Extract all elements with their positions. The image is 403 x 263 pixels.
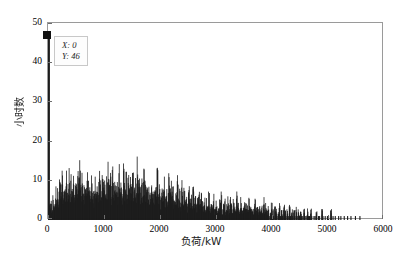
y-tick-label-10: 10 (20, 174, 42, 184)
histogram-bars (48, 23, 384, 220)
y-tick-mark-30 (48, 101, 52, 102)
y-tick-mark-20 (48, 141, 52, 142)
x-tick-mark-4000 (272, 215, 273, 219)
x-tick-mark-2000 (160, 215, 161, 219)
x-tick-mark-5000 (328, 215, 329, 219)
y-tick-label-0: 0 (20, 213, 42, 223)
data-cursor-x-value: X: 0 (62, 40, 80, 51)
y-tick-label-50: 50 (20, 17, 42, 27)
plot-area (47, 22, 383, 219)
y-tick-mark-40 (48, 62, 52, 63)
data-cursor-marker[interactable] (43, 31, 51, 39)
y-tick-mark-50 (48, 23, 52, 24)
data-cursor-y-value: Y: 46 (62, 51, 80, 62)
y-axis-title: 小时数 (11, 82, 26, 142)
x-tick-mark-6000 (382, 215, 383, 219)
x-tick-mark-0 (48, 215, 49, 219)
y-tick-mark-10 (48, 180, 52, 181)
x-tick-mark-3000 (216, 215, 217, 219)
data-cursor-tooltip[interactable]: X: 0 Y: 46 (54, 36, 88, 66)
x-axis-title: 负荷/kW (0, 233, 403, 248)
x-tick-mark-1000 (104, 215, 105, 219)
chart-figure: 50 40 30 20 10 0 0 1000 2000 3000 4000 5… (0, 0, 403, 263)
y-tick-label-40: 40 (20, 56, 42, 66)
